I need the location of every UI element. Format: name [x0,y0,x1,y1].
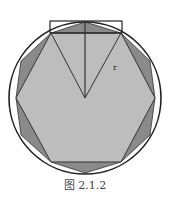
figure-caption: 图 2.1.2 [0,176,170,192]
geometry-figure: r [0,0,170,176]
radius-label: r [113,63,117,72]
